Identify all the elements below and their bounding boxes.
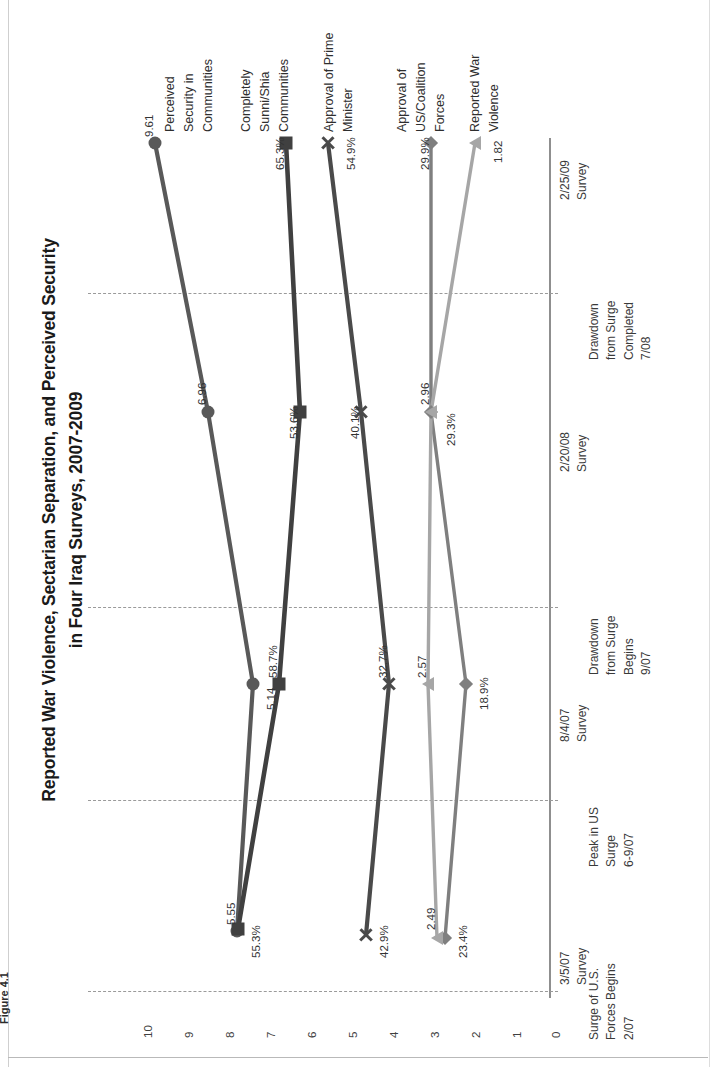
annotation-line: Peak in US [586, 807, 603, 867]
value-tick-7: 7 [265, 1032, 277, 1038]
line-perceived-security [155, 143, 253, 931]
series-label-approval-us: Approval of US/Coalition Forces [393, 63, 449, 132]
value-tick-6: 6 [306, 1032, 318, 1038]
series-label-line: Minister [339, 33, 358, 132]
data-label-perceived-security: 5.55 [225, 903, 237, 925]
series-label-line: Communities [275, 59, 294, 132]
data-label-reported-violence: 2.96 [419, 383, 431, 405]
category-label-survey-4: 2/25/09 Survey [557, 160, 592, 200]
series-label-line: US/Coalition [412, 63, 431, 132]
category-label-date: 2/25/09 [557, 160, 574, 200]
data-label-perceived-security: 6.96 [196, 383, 208, 405]
value-tick-10: 10 [142, 1025, 154, 1038]
line-reported-violence [428, 143, 475, 938]
data-label-completely-separated: 58.7% [267, 645, 279, 678]
annotation-line: Surge [603, 807, 620, 867]
annotation-drawdown-completed: Drawdown from Surge Completed 7/08 [586, 301, 656, 360]
data-label-reported-violence: 2.49 [425, 908, 437, 930]
series-label-line: Forces [431, 63, 450, 132]
marker-perceived-security [247, 678, 260, 691]
marker-perceived-security [149, 137, 162, 150]
annotation-line: from Surge [603, 616, 620, 675]
data-label-approval-us: 23.4% [457, 925, 469, 958]
annotation-line: Begins [621, 616, 638, 675]
value-tick-3: 3 [429, 1032, 441, 1038]
category-label-word: Survey [574, 160, 591, 200]
annotation-line: 9/07 [638, 616, 655, 675]
marker-reported-violence [469, 136, 481, 150]
data-label-reported-violence: 2.57 [416, 656, 428, 678]
data-label-approval-pm: 54.9% [345, 137, 357, 170]
marker-reported-violence [431, 931, 443, 945]
series-label-line: Approval of Prime [320, 33, 339, 132]
category-label-survey-2: 8/4/07 Survey [557, 705, 592, 742]
data-label-reported-violence: 1.82 [492, 141, 504, 163]
data-label-completely-separated: 65.3% [274, 137, 286, 170]
marker-approval-pm [357, 926, 375, 944]
series-label-reported-violence: Reported War Violence [466, 55, 504, 132]
marker-approval-pm [319, 134, 337, 152]
data-label-perceived-security: 5.14 [265, 688, 277, 710]
category-label-survey-3: 2/20/08 Survey [557, 432, 592, 472]
annotation-line: 2/07 [621, 963, 638, 1040]
series-label-line: Sunni/Shia [256, 59, 275, 132]
data-label-approval-pm: 40.1% [349, 406, 361, 439]
series-label-line: Perceived [161, 59, 180, 132]
annotation-drawdown-begins: Drawdown from Surge Begins 9/07 [586, 616, 656, 675]
series-label-line: Completely [237, 59, 256, 132]
annotation-line: Forces Begins [603, 963, 620, 1040]
value-tick-9: 9 [183, 1032, 195, 1038]
annotation-line: Surge of U.S. [586, 963, 603, 1040]
line-approval-pm [328, 143, 389, 935]
value-tick-5: 5 [347, 1032, 359, 1038]
data-label-approval-pm: 42.9% [378, 925, 390, 958]
data-label-perceived-security: 9.61 [143, 115, 155, 137]
category-label-date: 8/4/07 [557, 705, 574, 742]
marker-perceived-security [202, 406, 215, 419]
series-label-line: Security in [180, 59, 199, 132]
line-completely-separated [238, 143, 300, 929]
series-label-line: Approval of [393, 63, 412, 132]
category-label-word: Survey [574, 432, 591, 472]
annotation-line: Drawdown [586, 301, 603, 360]
category-label-date: 2/20/08 [557, 432, 574, 472]
value-tick-1: 1 [511, 1032, 523, 1038]
series-label-line: Violence [485, 55, 504, 132]
annotation-surge-begins: Surge of U.S. Forces Begins 2/07 [586, 963, 638, 1040]
marker-reported-violence [422, 677, 434, 691]
series-label-line: Communities [199, 59, 218, 132]
annotation-line: 7/08 [638, 301, 655, 360]
marker-reported-violence [425, 405, 437, 419]
data-label-approval-us: 29.3% [445, 413, 457, 446]
data-label-approval-pm: 32.7% [377, 645, 389, 678]
annotation-peak-surge: Peak in US Surge 6-9/07 [586, 807, 638, 867]
data-label-approval-us: 29.9% [419, 137, 431, 170]
data-label-completely-separated: 55.3% [250, 925, 262, 958]
series-label-approval-pm: Approval of Prime Minister [320, 33, 358, 132]
series-label-line: Reported War [466, 55, 485, 132]
annotation-line: 6-9/07 [621, 807, 638, 867]
annotation-line: Drawdown [586, 616, 603, 675]
value-tick-2: 2 [470, 1032, 482, 1038]
category-label-date: 3/5/07 [557, 948, 574, 985]
data-label-completely-separated: 53.6% [288, 406, 300, 439]
line-approval-us [431, 143, 466, 938]
value-tick-4: 4 [388, 1032, 400, 1038]
series-label-perceived-security: Perceived Security in Communities [161, 59, 217, 132]
plot-area: 9.61 65.3% 54.9% 29.9% 1.82 6.96 53.6% 4… [0, 0, 714, 1067]
data-label-approval-us: 18.9% [478, 677, 490, 710]
series-lines [0, 0, 714, 1067]
figure-page: Figure 4.1 Reported War Violence, Sectar… [0, 0, 714, 1067]
value-tick-8: 8 [224, 1032, 236, 1038]
annotation-line: Completed [621, 301, 638, 360]
value-tick-0: 0 [550, 1032, 562, 1038]
category-label-word: Survey [574, 705, 591, 742]
series-label-completely-separated: Completely Sunni/Shia Communities [237, 59, 293, 132]
annotation-line: from Surge [603, 301, 620, 360]
